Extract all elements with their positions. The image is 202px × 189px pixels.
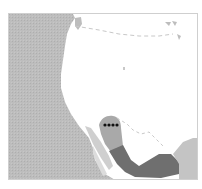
record-point bbox=[111, 123, 114, 126]
distribution-map bbox=[8, 13, 198, 180]
range-dark-area bbox=[109, 145, 179, 178]
record-point bbox=[115, 123, 118, 126]
map-canvas bbox=[9, 14, 198, 180]
coast-island bbox=[75, 17, 82, 30]
border-us-mexico bbox=[117, 118, 165, 148]
inland-lake bbox=[123, 67, 125, 70]
border-us-canada bbox=[75, 26, 173, 36]
great-lakes bbox=[165, 21, 181, 40]
record-point bbox=[103, 123, 106, 126]
record-point bbox=[107, 123, 110, 126]
